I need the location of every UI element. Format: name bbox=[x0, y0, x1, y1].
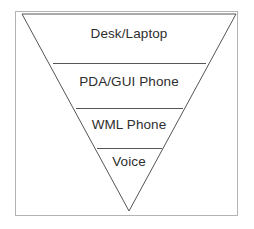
figure-frame-border bbox=[16, 12, 238, 216]
pyramid-diagram-canvas bbox=[0, 0, 254, 229]
inverted-pyramid-outline bbox=[22, 14, 236, 211]
pyramid-diagram-figure: Desk/Laptop PDA/GUI Phone WML Phone Voic… bbox=[0, 0, 254, 229]
